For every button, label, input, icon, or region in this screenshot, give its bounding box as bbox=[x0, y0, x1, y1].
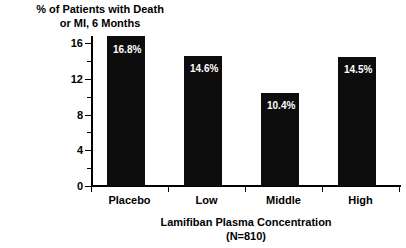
bar-value-placebo: 16.8% bbox=[113, 45, 141, 55]
bar-high bbox=[338, 57, 376, 186]
y-tick-minor-6 bbox=[87, 132, 91, 133]
x-category-label-middle: Middle bbox=[245, 194, 322, 206]
x-category-label-high: High bbox=[322, 194, 399, 206]
x-axis-sample-size: (N=810) bbox=[91, 230, 401, 243]
y-tick-16 bbox=[85, 43, 91, 44]
y-tick-8 bbox=[85, 115, 91, 116]
y-axis-line bbox=[91, 36, 93, 187]
bar-value-high: 14.5% bbox=[344, 65, 372, 75]
y-tick-label-12: 12 bbox=[57, 74, 83, 85]
x-axis-title: Lamifiban Plasma Concentration bbox=[91, 216, 401, 229]
y-tick-label-16: 16 bbox=[57, 38, 83, 49]
x-tick-1 bbox=[168, 187, 169, 192]
bar-placebo bbox=[107, 36, 145, 186]
y-tick-minor-10 bbox=[87, 97, 91, 98]
x-category-label-low: Low bbox=[168, 194, 245, 206]
y-tick-label-4: 4 bbox=[57, 145, 83, 156]
y-tick-label-8: 8 bbox=[57, 110, 83, 121]
x-tick-3 bbox=[322, 187, 323, 192]
x-tick-4 bbox=[399, 187, 400, 192]
x-tick-2 bbox=[245, 187, 246, 192]
x-category-label-placebo: Placebo bbox=[91, 194, 168, 206]
y-tick-minor-2 bbox=[87, 168, 91, 169]
plot-area: 0 4 8 12 16 16.8% 14.6% 10.4% 14.5% Plac… bbox=[0, 0, 406, 248]
bar-value-low: 14.6% bbox=[190, 64, 218, 74]
chart-figure: % of Patients with Death or MI, 6 Months… bbox=[0, 0, 406, 248]
y-tick-label-0: 0 bbox=[57, 181, 83, 192]
y-tick-minor-14 bbox=[87, 61, 91, 62]
y-tick-4 bbox=[85, 150, 91, 151]
bar-value-middle: 10.4% bbox=[267, 101, 295, 111]
y-tick-12 bbox=[85, 79, 91, 80]
bar-low bbox=[184, 56, 222, 186]
x-tick-0 bbox=[91, 187, 92, 192]
